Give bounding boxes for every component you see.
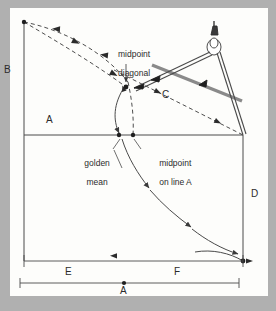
diagram-stage: B A C D E F A midpoint diagonal golden m… xyxy=(0,0,276,311)
label-side-d: D xyxy=(251,188,258,199)
label-midpoint-on-line-a-line2: on line A xyxy=(159,177,192,187)
leader-golden-mean-long xyxy=(114,150,122,168)
dimension-line-ef xyxy=(24,253,253,267)
label-midpoint-diagonal: midpoint diagonal xyxy=(96,40,158,88)
label-segment-f: F xyxy=(174,266,180,277)
point-midpoint-on-line-a xyxy=(131,133,135,137)
label-midpoint-diagonal-line2: diagonal xyxy=(118,68,150,78)
label-line-a-top: A xyxy=(46,114,53,125)
point-golden-mean xyxy=(117,133,121,137)
label-diagonal-c: C xyxy=(162,89,169,100)
label-baseline-a: A xyxy=(120,285,127,296)
diagram-panel: B A C D E F A midpoint diagonal golden m… xyxy=(10,8,268,296)
leader-midpoint-on-line-a xyxy=(134,139,141,149)
label-golden-mean-line2: mean xyxy=(86,177,107,187)
label-midpoint-on-line-a: midpoint on line A xyxy=(145,149,207,197)
point-top-left xyxy=(22,20,26,24)
sweep-arc-3 xyxy=(192,229,238,254)
label-segment-e: E xyxy=(65,266,72,277)
dashed-vertical-drop xyxy=(128,82,133,135)
golden-mean-arc xyxy=(115,86,125,133)
sweep-arc-final xyxy=(195,251,243,261)
label-midpoint-diagonal-line1: midpoint xyxy=(118,49,150,59)
label-midpoint-on-line-a-line1: midpoint xyxy=(159,158,191,168)
label-golden-mean: golden mean xyxy=(67,149,113,197)
label-corner-b: B xyxy=(4,64,11,75)
dimension-line-a xyxy=(20,278,239,288)
label-golden-mean-line1: golden xyxy=(84,158,110,168)
leader-golden-mean xyxy=(113,139,120,149)
